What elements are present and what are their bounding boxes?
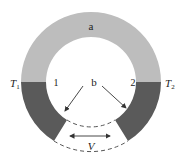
label-junction-2: 2 <box>131 77 136 88</box>
label-t2: T2 <box>165 77 175 91</box>
label-b: b <box>91 76 97 88</box>
segment-b-left <box>21 82 67 141</box>
gap-inner-dashed-arc <box>67 120 115 127</box>
arrow-b-left <box>65 86 83 111</box>
label-voltage: V <box>88 140 96 152</box>
arrow-b-right <box>102 86 126 108</box>
segment-b-right <box>115 82 161 141</box>
thermocouple-diagram: a b 1 2 T1 T2 V <box>0 0 182 166</box>
label-junction-1: 1 <box>54 77 59 88</box>
label-t1: T1 <box>10 77 20 91</box>
label-a: a <box>89 20 94 32</box>
